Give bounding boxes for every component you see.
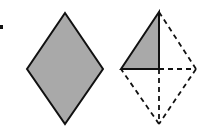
dashed-edge-bottom-left [121, 69, 159, 124]
dashed-edge-right-bottom [159, 69, 196, 124]
shaded-right-triangle [121, 12, 159, 69]
rhombus-diagram [0, 0, 201, 128]
bullet-mark [0, 25, 3, 29]
dashed-edge-top-right [159, 12, 196, 69]
shaded-rhombus [27, 13, 103, 124]
decomposed-rhombus [121, 12, 196, 124]
